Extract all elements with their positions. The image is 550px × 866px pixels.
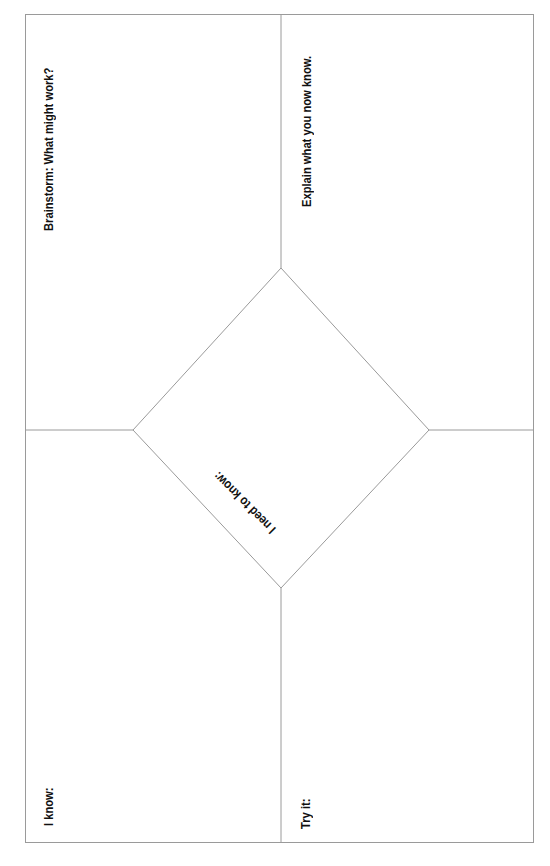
label-brainstorm-text: Brainstorm: What might work? xyxy=(41,68,56,231)
label-explain-text: Explain what you now know. xyxy=(299,56,314,207)
label-i-know: I know: xyxy=(41,781,56,826)
center-diamond xyxy=(133,268,429,588)
graphic-organizer-lines xyxy=(0,0,550,866)
label-i-know-text: I know: xyxy=(41,787,56,826)
label-try-it-text: Try it: xyxy=(298,799,313,829)
label-brainstorm: Brainstorm: What might work? xyxy=(41,41,56,231)
label-try-it: Try it: xyxy=(298,794,313,829)
label-explain: Explain what you now know. xyxy=(299,31,314,207)
